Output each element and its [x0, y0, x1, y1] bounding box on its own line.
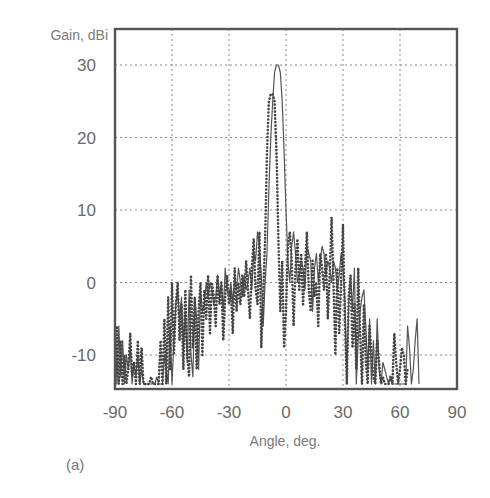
y-tick-labels: -100102030 [71, 56, 96, 365]
x-tick-labels: -90-60-300306090 [103, 403, 467, 422]
x-tick-label: 30 [334, 403, 353, 422]
y-tick-label: -10 [71, 346, 96, 365]
series-solid [115, 65, 419, 384]
panel-label: (a) [66, 456, 84, 473]
x-tick-label: -30 [217, 403, 242, 422]
chart: -100102030 -90-60-300306090 Gain, dBi An… [0, 0, 490, 498]
x-tick-label: -90 [103, 403, 128, 422]
x-tick-label: 60 [391, 403, 410, 422]
y-tick-label: 0 [87, 274, 96, 293]
data-series [115, 65, 419, 384]
x-tick-label: 0 [281, 403, 290, 422]
y-axis-label: Gain, dBi [50, 27, 108, 43]
y-tick-label: 10 [77, 201, 96, 220]
x-axis-label: Angle, deg. [250, 433, 321, 449]
x-tick-label: 90 [448, 403, 467, 422]
y-tick-label: 30 [77, 56, 96, 75]
y-tick-label: 20 [77, 129, 96, 148]
x-tick-label: -60 [160, 403, 185, 422]
